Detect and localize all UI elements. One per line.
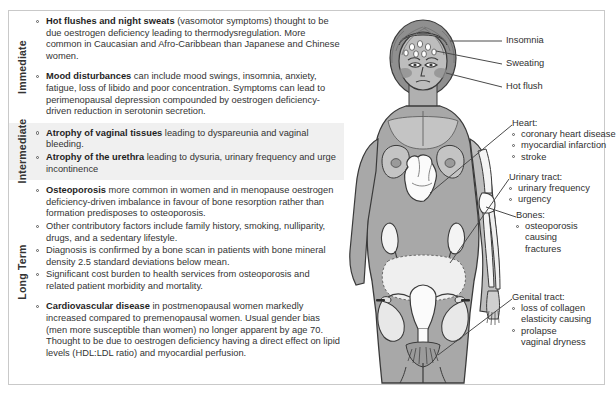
annotation-heading: Genital tract: bbox=[512, 292, 591, 303]
annotation-heading: Urinary tract: bbox=[509, 172, 590, 183]
bullet-item: Osteoporosis more common in women and in… bbox=[35, 185, 340, 220]
list-item: urinary frequency bbox=[509, 183, 590, 194]
annotation-heading: Insomnia bbox=[506, 35, 544, 46]
list-item-continuation: fractures bbox=[516, 244, 578, 255]
anatomy-figure-panel: Insomnia Sweating Hot flush Heart: coron… bbox=[346, 11, 604, 384]
list-item: osteoporosis bbox=[516, 221, 578, 232]
annotation-genital-tract: Genital tract: loss of collagen elastici… bbox=[512, 292, 591, 348]
bullet-lead: Hot flushes and night sweats bbox=[46, 16, 175, 26]
list-item: stroke bbox=[512, 152, 616, 163]
band-label-immediate: Immediate bbox=[9, 11, 35, 123]
annotation-heading: Sweating bbox=[506, 58, 544, 69]
bullet-lead: Osteoporosis bbox=[46, 185, 106, 195]
bullet-item: Significant cost burden to health servic… bbox=[35, 269, 340, 292]
annotation-heading: Heart: bbox=[512, 118, 616, 129]
annotation-bones: Bones: osteoporosis causing fractures bbox=[516, 210, 578, 255]
annotation-list: osteoporosis causing fractures bbox=[516, 221, 578, 255]
band-body: Hot flushes and night sweats (vasomotor … bbox=[35, 11, 344, 123]
list-item: coronary heart disease bbox=[512, 129, 616, 140]
symptom-text-column: ImmediateHot flushes and night sweats (v… bbox=[9, 11, 344, 384]
annotation-sweating: Sweating bbox=[506, 58, 544, 69]
annotation-list: coronary heart disease myocardial infarc… bbox=[512, 129, 616, 163]
list-item: prolapse bbox=[512, 326, 591, 337]
bullet-text: Diagnosis is confirmed by a bone scan in… bbox=[46, 245, 326, 267]
band-label-text: Intermediate bbox=[16, 119, 28, 184]
band-body: Osteoporosis more common in women and in… bbox=[35, 180, 344, 364]
list-item: myocardial infarction bbox=[512, 140, 616, 151]
band-label-long-term: Long Term bbox=[9, 180, 35, 364]
bullet-item: Mood disturbances can include mood swing… bbox=[35, 71, 340, 117]
bullet-item: Atrophy of the urethra leading to dysuri… bbox=[35, 152, 340, 175]
bullet-list: Osteoporosis more common in women and in… bbox=[35, 185, 340, 359]
bullet-item: Cardiovascular disease in postmenopausal… bbox=[35, 301, 340, 359]
bullet-item: Other contributory factors include famil… bbox=[35, 221, 340, 244]
band-label-text: Immediate bbox=[16, 40, 28, 94]
face-shape bbox=[399, 32, 447, 90]
band-label-text: Long Term bbox=[16, 245, 28, 300]
annotation-list: urinary frequency urgency bbox=[509, 183, 590, 205]
list-item-continuation: causing bbox=[516, 232, 578, 243]
bullet-item: Diagnosis is confirmed by a bone scan in… bbox=[35, 245, 340, 268]
symptom-band-intermediate: IntermediateAtrophy of vaginal tissues l… bbox=[9, 123, 344, 180]
annotation-heart: Heart: coronary heart disease myocardial… bbox=[512, 118, 616, 163]
annotation-heading: Bones: bbox=[516, 210, 578, 221]
bullet-lead: Atrophy of the urethra bbox=[46, 152, 144, 162]
bullet-text: Other contributory factors include famil… bbox=[46, 221, 325, 243]
band-label-intermediate: Intermediate bbox=[9, 123, 35, 180]
symptom-band-immediate: ImmediateHot flushes and night sweats (v… bbox=[9, 11, 344, 123]
bullet-lead: Mood disturbances bbox=[46, 71, 131, 81]
list-item-continuation: vaginal dryness bbox=[512, 337, 591, 348]
bullet-item: Atrophy of vaginal tissues leading to dy… bbox=[35, 128, 340, 151]
bullet-lead: Atrophy of vaginal tissues bbox=[46, 128, 162, 138]
annotation-heading: Hot flush bbox=[506, 81, 543, 92]
list-item: urgency bbox=[509, 194, 590, 205]
bullet-lead: Cardiovascular disease bbox=[46, 301, 150, 311]
list-item: loss of collagen bbox=[512, 303, 591, 314]
bullet-item: Hot flushes and night sweats (vasomotor … bbox=[35, 16, 340, 62]
bullet-list: Hot flushes and night sweats (vasomotor … bbox=[35, 16, 340, 118]
band-body: Atrophy of vaginal tissues leading to dy… bbox=[35, 123, 344, 180]
symptom-band-long-term: Long TermOsteoporosis more common in wom… bbox=[9, 180, 344, 364]
list-item-continuation: elasticity causing bbox=[512, 314, 591, 325]
annotation-insomnia: Insomnia bbox=[506, 35, 544, 46]
bullet-text: Significant cost burden to health servic… bbox=[46, 269, 310, 291]
annotation-list: loss of collagen elasticity causing prol… bbox=[512, 303, 591, 348]
bullet-list: Atrophy of vaginal tissues leading to dy… bbox=[35, 128, 340, 175]
annotation-urinary-tract: Urinary tract: urinary frequency urgency bbox=[509, 172, 590, 206]
annotation-hot-flush: Hot flush bbox=[506, 81, 543, 92]
